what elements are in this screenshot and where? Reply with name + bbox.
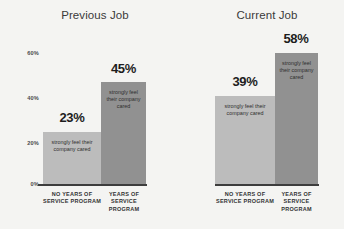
chart-group-previous-job: strongly feel their company cared strong…: [43, 0, 147, 229]
y-axis-tick-40: 40%: [27, 95, 39, 101]
bar-previous-years-of-service-program[interactable]: strongly feel their company cared: [101, 82, 146, 184]
bar-current-years-of-service-program[interactable]: strongly feel their company cared: [275, 53, 318, 184]
axis-baseline-previous: [38, 184, 147, 186]
axis-baseline-current: [215, 184, 319, 186]
value-label-current-no-years: 39%: [221, 74, 269, 89]
bar-annotation: strongly feel their company cared: [215, 103, 275, 117]
category-label-previous-years: YEARS OF SERVICE PROGRAM: [101, 191, 147, 213]
value-label-previous-no-years: 23%: [48, 110, 96, 125]
category-label-previous-no-years: NO YEARS OF SERVICE PROGRAM: [42, 191, 102, 206]
bar-current-no-years-of-service-program[interactable]: strongly feel their company cared: [215, 96, 275, 184]
bar-annotation: strongly feel their company cared: [101, 89, 146, 111]
category-label-current-no-years: NO YEARS OF SERVICE PROGRAM: [215, 191, 275, 206]
bar-previous-no-years-of-service-program[interactable]: strongly feel their company cared: [43, 132, 101, 184]
y-axis-tick-60: 60%: [27, 50, 39, 56]
value-label-previous-years: 45%: [100, 61, 147, 76]
value-label-current-years: 58%: [273, 31, 319, 46]
chart-canvas: Previous Job Current Job 60% 40% 20% 0% …: [0, 0, 344, 229]
y-axis: 60% 40% 20% 0%: [10, 0, 39, 229]
chart-group-current-job: strongly feel their company cared strong…: [215, 0, 319, 229]
plot-area-current-job: strongly feel their company cared strong…: [215, 48, 319, 184]
y-axis-tick-20: 20%: [27, 140, 39, 146]
bar-annotation: strongly feel their company cared: [275, 60, 318, 82]
category-label-current-years: YEARS OF SERVICE PROGRAM: [274, 191, 319, 213]
bar-annotation: strongly feel their company cared: [43, 139, 101, 153]
